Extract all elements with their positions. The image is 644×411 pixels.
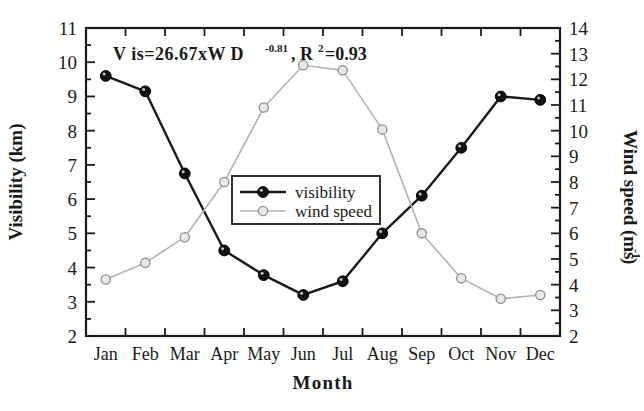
x-axis-tick-label: Sep	[408, 344, 435, 364]
data-point	[496, 294, 505, 303]
legend-label: wind speed	[295, 202, 372, 221]
left-axis-tick-label: 10	[58, 52, 77, 73]
data-point	[536, 290, 545, 299]
data-point-highlight	[300, 292, 303, 295]
data-point	[417, 229, 426, 238]
left-axis-tick-label: 4	[68, 258, 78, 279]
x-axis-tick-label: Apr	[210, 344, 238, 364]
equation-annotation: V is=26.67xW D-0.81, R2=0.93	[113, 42, 367, 64]
x-axis-tick-label: Feb	[132, 344, 159, 364]
data-point	[219, 245, 230, 256]
left-axis-tick-label: 5	[68, 223, 78, 244]
right-axis-tick-label: 14	[569, 18, 589, 39]
legend-label: visibility	[295, 183, 356, 202]
data-point	[495, 91, 506, 102]
data-point-highlight	[142, 88, 145, 91]
data-point	[377, 228, 388, 239]
right-axis-tick-label: 9	[569, 146, 579, 167]
data-point	[298, 290, 309, 301]
data-point-highlight	[379, 230, 382, 233]
data-point-highlight	[458, 144, 461, 147]
left-axis-tick-label: 9	[68, 86, 78, 107]
right-axis-tick-label: 7	[569, 198, 579, 219]
data-point	[179, 168, 190, 179]
data-point-highlight	[419, 192, 422, 195]
data-point	[258, 270, 269, 281]
data-point	[220, 177, 229, 186]
right-axis-tick-label: 11	[569, 95, 587, 116]
x-axis-tick-label: Nov	[485, 344, 516, 364]
data-point	[180, 233, 189, 242]
data-point-highlight	[103, 73, 106, 76]
data-point	[456, 142, 467, 153]
x-axis-tick-label: Oct	[448, 344, 474, 364]
right-axis-tick-label: 6	[569, 223, 579, 244]
chart-figure: 234567891011234567891011121314JanFebMarA…	[0, 0, 644, 411]
data-point	[535, 94, 546, 105]
left-axis-tick-label: 3	[68, 292, 78, 313]
left-axis: 234567891011	[58, 18, 95, 347]
x-axis-tick-label: Dec	[526, 344, 555, 364]
x-axis-tick-label: Jun	[291, 344, 316, 364]
left-axis-title: Visibility (km)	[5, 124, 27, 241]
right-axis-tick-label: 3	[569, 300, 579, 321]
x-axis-tick-label: Jan	[94, 344, 118, 364]
data-point	[101, 275, 110, 284]
data-point-highlight	[221, 247, 224, 250]
right-axis-tick-label: 12	[569, 69, 588, 90]
x-axis-tick-label: Jul	[332, 344, 353, 364]
data-point	[259, 103, 268, 112]
left-axis-tick-label: 11	[59, 18, 77, 39]
data-point	[338, 66, 347, 75]
data-point	[378, 125, 387, 134]
data-point	[100, 71, 111, 82]
left-axis-tick-label: 2	[68, 326, 78, 347]
legend-marker-highlight	[260, 189, 263, 192]
equation-suffix: =0.93	[325, 44, 367, 64]
legend-marker	[258, 187, 269, 198]
equation-exponent: -0.81	[265, 42, 288, 54]
left-axis-tick-label: 8	[68, 121, 78, 142]
right-axis-title-tail: )	[619, 258, 641, 264]
data-point	[141, 258, 150, 267]
data-point-highlight	[182, 170, 185, 173]
data-point-highlight	[261, 272, 264, 275]
right-axis-tick-label: 4	[569, 275, 579, 296]
data-point	[416, 190, 427, 201]
left-axis-tick-label: 7	[68, 155, 78, 176]
x-axis-tick-label: May	[247, 344, 280, 364]
right-axis-tick-label: 2	[569, 326, 579, 347]
data-point-highlight	[498, 93, 501, 96]
x-axis-tick-label: Mar	[170, 344, 200, 364]
chart-svg: 234567891011234567891011121314JanFebMarA…	[0, 0, 644, 411]
right-axis-tick-label: 13	[569, 44, 588, 65]
legend-marker	[258, 206, 267, 215]
data-point	[140, 86, 151, 97]
x-axis-tick-label: Aug	[367, 344, 398, 364]
right-axis-title-main: Wind speed (ms	[619, 130, 641, 260]
x-axis-title: Month	[293, 372, 354, 393]
right-axis-tick-label: 8	[569, 172, 579, 193]
right-axis-tick-label: 5	[569, 249, 579, 270]
right-axis: 234567891011121314	[551, 18, 589, 347]
left-axis-tick-label: 6	[68, 189, 78, 210]
data-point	[457, 274, 466, 283]
right-axis-tick-label: 10	[569, 121, 588, 142]
legend: visibilitywind speed	[232, 176, 380, 224]
equation-text: V is=26.67xW D	[113, 44, 244, 64]
data-point-highlight	[537, 97, 540, 100]
data-point	[337, 276, 348, 287]
equation-sup2: 2	[318, 42, 324, 54]
data-point-highlight	[340, 278, 343, 281]
right-axis-title: Wind speed (ms-1)	[619, 130, 643, 264]
equation-middle: , R	[291, 44, 314, 64]
